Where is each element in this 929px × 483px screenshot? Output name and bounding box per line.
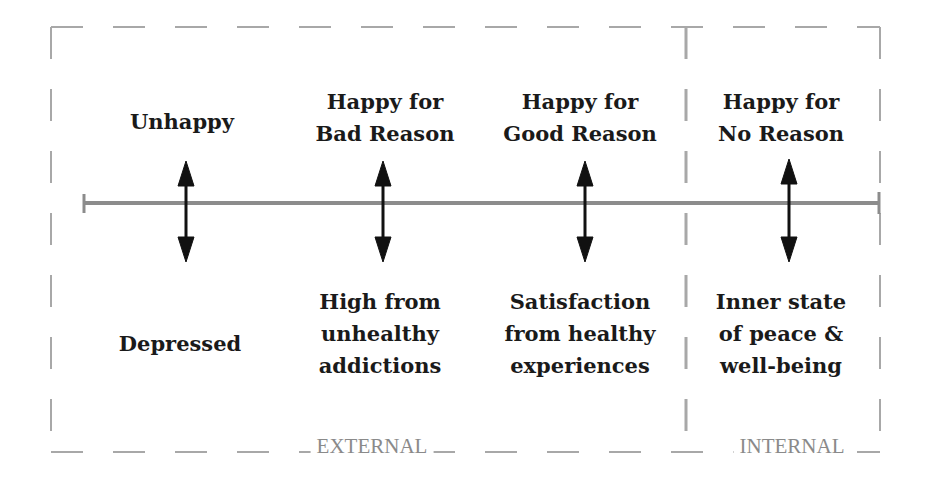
double-arrows <box>178 159 797 262</box>
double-arrow-icon <box>577 161 593 262</box>
double-arrow-icon <box>178 161 194 262</box>
diagram-graphics <box>0 0 929 483</box>
double-arrow-icon <box>375 161 391 262</box>
label-high-unhealthy: High from unhealthy addictions <box>285 286 475 382</box>
label-happy-good-reason: Happy for Good Reason <box>485 86 675 150</box>
label-happy-no-reason: Happy for No Reason <box>686 86 876 150</box>
region-label-external: EXTERNAL <box>311 434 434 459</box>
double-arrow-icon <box>781 159 797 262</box>
label-inner-peace: Inner state of peace & well-being <box>686 286 876 382</box>
label-depressed: Depressed <box>85 328 275 360</box>
label-satisfaction-healthy: Satisfaction from healthy experiences <box>485 286 675 382</box>
region-label-internal: INTERNAL <box>734 434 851 459</box>
label-unhappy: Unhappy <box>87 106 277 138</box>
label-happy-bad-reason: Happy for Bad Reason <box>290 86 480 150</box>
